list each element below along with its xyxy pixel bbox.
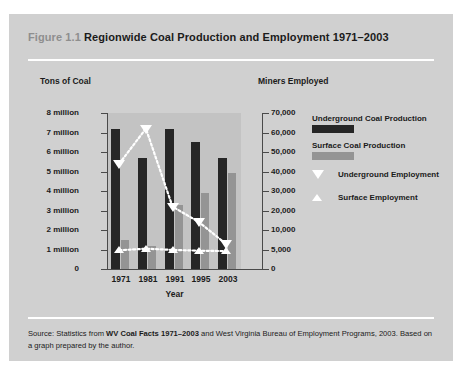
- y-axis-title: Tons of Coal: [40, 76, 91, 86]
- legend-label-surface-coal-production: Surface Coal Production: [312, 141, 442, 150]
- y2-axis-tick-label: 40,000: [271, 168, 295, 176]
- y2-axis-tick: [262, 269, 269, 270]
- y-axis-tick: [101, 152, 108, 153]
- marker-surface-employment: [221, 247, 231, 254]
- marker-surface-employment: [168, 246, 178, 253]
- y2-axis-tick: [262, 133, 269, 134]
- bar-underground-production: [138, 158, 147, 269]
- y-axis-tick-label: 2 million: [47, 226, 79, 234]
- y-axis-tick-label: 5 million: [47, 168, 79, 176]
- figure-title-text: Regionwide Coal Production and Employmen…: [84, 31, 389, 43]
- legend-swatch-surface-coal-production: [312, 152, 354, 160]
- bar-surface-production: [175, 205, 183, 269]
- marker-surface-employment: [114, 246, 124, 253]
- y2-axis-tick-label: 5,000: [271, 246, 291, 254]
- legend-row-surface-employment: Surface Employment: [312, 191, 442, 203]
- y2-axis-tick: [262, 230, 269, 231]
- y-axis-tick-label: 8 million: [47, 109, 79, 117]
- y2-axis-tick: [262, 211, 269, 212]
- y-axis-tick: [101, 250, 108, 251]
- marker-underground-employment: [193, 218, 205, 227]
- y-axis-tick-label: 0: [75, 265, 79, 273]
- source-emphasis: WV Coal Facts 1971–2003: [106, 329, 199, 338]
- triangle-down-icon: [312, 170, 324, 179]
- bar-surface-production: [121, 240, 129, 269]
- y2-axis-tick: [262, 250, 269, 251]
- y-axis-tick: [101, 230, 108, 231]
- title-divider: [28, 59, 434, 61]
- figure-card: Figure 1.1 Regionwide Coal Production an…: [9, 14, 453, 361]
- x-axis-line: [107, 269, 263, 270]
- y-axis-tick-label: 4 million: [47, 187, 79, 195]
- y-axis-tick: [101, 211, 108, 212]
- marker-underground-employment: [113, 160, 125, 169]
- legend-swatch-underground-coal-production: [312, 125, 354, 133]
- triangle-up-icon: [312, 194, 322, 201]
- x-axis-tick-label: 2003: [212, 274, 244, 284]
- legend-label-underground-coal-production: Underground Coal Production: [312, 114, 442, 123]
- y-axis-tick: [101, 113, 108, 114]
- source-prefix: Source: Statistics from: [28, 329, 106, 338]
- marker-surface-employment: [194, 247, 204, 254]
- figure-title: Figure 1.1 Regionwide Coal Production an…: [28, 31, 434, 43]
- source-note: Source: Statistics from WV Coal Facts 19…: [28, 328, 434, 352]
- figure-number: Figure 1.1: [28, 31, 81, 43]
- bar-surface-production: [228, 173, 236, 269]
- legend-marker-cell: [312, 170, 338, 179]
- x-axis-title: Year: [108, 289, 241, 299]
- y-axis-tick-label: 3 million: [47, 207, 79, 215]
- marker-underground-employment: [167, 203, 179, 212]
- y2-axis-tick-label: 10,000: [271, 226, 295, 234]
- source-divider: [28, 317, 434, 319]
- y-axis-tick-label: 1 million: [47, 246, 79, 254]
- y-axis-tick: [101, 133, 108, 134]
- legend-row-underground-employment: Underground Employment: [312, 168, 442, 180]
- y2-axis-title: Miners Employed: [258, 76, 328, 86]
- y2-axis-tick: [262, 172, 269, 173]
- marker-surface-employment: [141, 245, 151, 252]
- legend-marker-cell: [312, 194, 338, 201]
- y2-axis-tick-label: 50,000: [271, 148, 295, 156]
- bar-surface-production: [201, 193, 209, 269]
- y2-axis-tick: [262, 191, 269, 192]
- y-axis-tick-label: 7 million: [47, 129, 79, 137]
- y-axis-tick: [101, 172, 108, 173]
- y2-axis-tick-label: 60,000: [271, 129, 295, 137]
- legend-label-surface-employment: Surface Employment: [338, 193, 418, 202]
- marker-underground-employment: [140, 125, 152, 134]
- y-axis-tick-label: 6 million: [47, 148, 79, 156]
- y-axis-tick: [101, 269, 108, 270]
- legend-label-underground-employment: Underground Employment: [338, 170, 439, 179]
- chart-legend: Underground Coal ProductionSurface Coal …: [312, 114, 442, 214]
- y2-axis-tick-label: 20,000: [271, 207, 295, 215]
- y2-axis-tick: [262, 113, 269, 114]
- y2-axis-tick-label: 30,000: [271, 187, 295, 195]
- y2-axis-tick: [262, 152, 269, 153]
- y2-axis-tick-label: 70,000: [271, 109, 295, 117]
- y-axis-tick: [101, 191, 108, 192]
- y2-axis-tick-label: 0: [271, 265, 275, 273]
